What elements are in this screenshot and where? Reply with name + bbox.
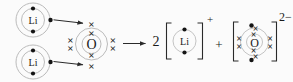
- valence-electron-dot: [48, 18, 52, 22]
- electron-cross: ×: [236, 41, 242, 52]
- electron-cross: ×: [67, 42, 73, 54]
- electron-dot: [182, 50, 186, 54]
- lithium-ion: Li +: [167, 13, 214, 60]
- electron-dot: [182, 27, 186, 31]
- electron-dot: [31, 71, 35, 75]
- electron-transfer-arrow-top: [54, 20, 84, 23]
- valence-electron-dot: [48, 60, 52, 64]
- ion-charge: 2−: [279, 10, 292, 24]
- element-symbol: Li: [29, 15, 38, 26]
- coefficient: 2: [153, 34, 160, 49]
- plus-sign: +: [215, 37, 222, 52]
- lithium-atom-top: Li: [16, 3, 53, 37]
- electron-cross: ×: [251, 29, 257, 40]
- electron-cross: ×: [88, 60, 94, 72]
- ion-charge: +: [207, 13, 213, 25]
- right-bracket: [198, 23, 203, 59]
- oxide-ion: O × × × × × × × × 2−: [234, 10, 293, 63]
- gained-electron-dot: [249, 58, 253, 62]
- electron-dot: [31, 29, 35, 33]
- electron-transfer-figure: Li Li O × × × × × × × × 2 Li: [0, 0, 293, 82]
- lithium-atom-bottom: Li: [16, 45, 53, 79]
- electron-cross: ×: [88, 27, 94, 39]
- element-symbol: Li: [180, 36, 189, 47]
- left-bracket: [167, 23, 172, 59]
- element-symbol: Li: [29, 57, 38, 68]
- electron-dot: [31, 6, 35, 10]
- diagram-svg: Li Li O × × × × × × × × 2 Li: [0, 0, 293, 82]
- electron-dot: [31, 48, 35, 52]
- electron-cross: ×: [267, 41, 273, 52]
- electron-transfer-arrow-bottom: [54, 62, 84, 65]
- electron-cross: ×: [110, 42, 116, 54]
